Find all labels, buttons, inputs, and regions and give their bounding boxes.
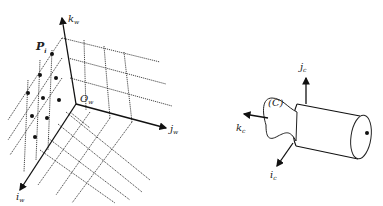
label-i-w: iw <box>16 191 25 203</box>
label-point-p: Pi <box>35 40 47 54</box>
diagram-canvas: kw Pi Ow jw iw (C) jc <box>0 0 383 206</box>
label-k-c: kc <box>236 122 246 134</box>
label-j-c: jc <box>298 61 307 73</box>
label-k-w: kw <box>68 13 80 25</box>
point-markers <box>26 52 61 139</box>
axis-k-w <box>62 18 76 104</box>
floor-grid <box>38 112 150 203</box>
axis-i-c <box>277 143 293 166</box>
label-camera-frame: (C) <box>268 97 284 108</box>
label-origin-w: Ow <box>80 93 94 105</box>
world-grid <box>8 38 172 203</box>
left-wall-grid <box>8 38 62 172</box>
label-i-c: ic <box>270 169 277 181</box>
back-wall-grid <box>62 38 172 122</box>
axis-j-w <box>76 104 166 128</box>
label-j-w: jw <box>168 123 179 135</box>
world-labels: kw Pi Ow jw iw <box>16 13 179 203</box>
camera-rear-dot <box>365 131 369 135</box>
